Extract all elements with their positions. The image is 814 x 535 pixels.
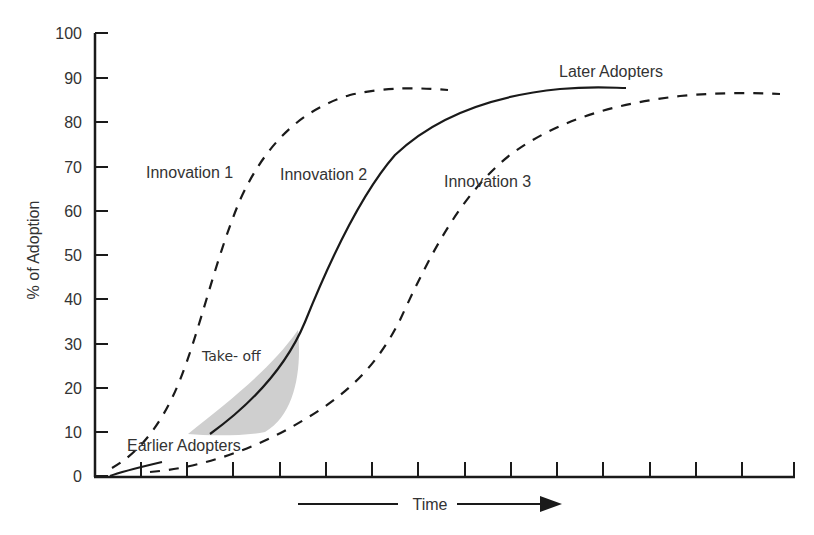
x-ticks — [141, 462, 794, 477]
svg-text:100: 100 — [55, 25, 82, 42]
takeoff-label: Take- off — [201, 348, 261, 364]
svg-text:60: 60 — [64, 203, 82, 220]
y-tick-labels: 0 10 20 30 40 50 60 70 80 90 100 — [55, 25, 82, 485]
y-ticks — [95, 33, 108, 476]
earlier-adopters-label: Earlier Adopters — [127, 437, 241, 454]
innovation-1-label: Innovation 1 — [146, 164, 233, 181]
innovation-2-curve — [110, 87, 626, 476]
x-axis-label: Time — [413, 496, 448, 513]
svg-text:20: 20 — [64, 380, 82, 397]
svg-text:40: 40 — [64, 291, 82, 308]
y-axis-label: % of Adoption — [25, 201, 42, 300]
svg-text:50: 50 — [64, 247, 82, 264]
svg-text:90: 90 — [64, 70, 82, 87]
innovation-2-label: Innovation 2 — [280, 166, 367, 183]
svg-text:30: 30 — [64, 336, 82, 353]
adoption-chart: 0 10 20 30 40 50 60 70 80 90 100 % of Ad… — [0, 0, 814, 535]
later-adopters-label: Later Adopters — [559, 63, 663, 80]
svg-text:10: 10 — [64, 424, 82, 441]
arrow-right-icon — [540, 496, 562, 512]
svg-text:0: 0 — [73, 468, 82, 485]
svg-text:70: 70 — [64, 159, 82, 176]
takeoff-shaded-region — [188, 330, 299, 435]
svg-text:80: 80 — [64, 114, 82, 131]
innovation-3-label: Innovation 3 — [444, 173, 531, 190]
